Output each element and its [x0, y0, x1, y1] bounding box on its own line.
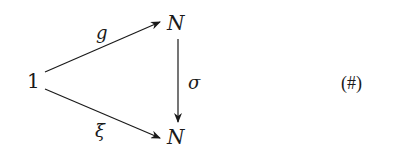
label-g: g: [96, 24, 108, 42]
label-sigma: σ: [188, 74, 200, 92]
equation-tag: (#): [341, 74, 362, 92]
node-source-1: 1: [27, 71, 40, 91]
label-xi: ξ: [95, 122, 105, 140]
node-top-N: N: [167, 13, 185, 33]
commutative-diagram: 1 N N g σ ξ (#): [0, 0, 398, 157]
node-bottom-N: N: [167, 127, 185, 147]
